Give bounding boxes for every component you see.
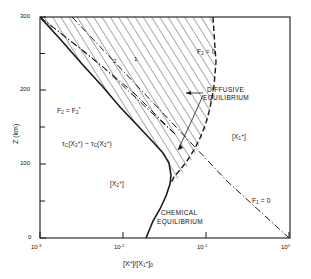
x-axis-major-ticks xyxy=(40,232,289,238)
annotation-f2-equals-f2-star: F2 = F2* xyxy=(57,107,81,115)
x-tick-1e-3: 10-3 xyxy=(31,243,41,250)
annotation-diffusive-line2: EQUILIBRIUM xyxy=(203,94,249,101)
annotation-diffusive-line1: DIFFUSIVE xyxy=(207,86,244,93)
x-tick-1e-2: 10-2 xyxy=(114,243,124,250)
annotation-x2-plus: [X2+] xyxy=(110,180,124,188)
annotation-curve-2: 2 xyxy=(113,58,117,64)
x-axis-label: [X+]/[X1+]0 xyxy=(123,260,153,268)
annotation-f2-equals-zero: F2 = 0 xyxy=(197,48,216,56)
y-tick-0: 0 xyxy=(28,234,31,240)
annotation-x1-plus: [X1+] xyxy=(232,133,246,141)
chart-canvas xyxy=(0,0,311,279)
annotation-curve-1: 1 xyxy=(134,56,138,62)
y-tick-300: 300 xyxy=(20,13,30,19)
y-tick-100: 100 xyxy=(20,160,30,166)
y-tick-200: 200 xyxy=(20,86,30,92)
annotation-tau-comparison: τC(X2+) ~ τC(X2+) xyxy=(62,140,112,148)
annotation-f1-equals-zero: F1 = 0 xyxy=(252,197,271,205)
figure-root: 300 200 100 0 Z (km) 10-3 10-2 10-1 100 … xyxy=(0,0,311,279)
x-tick-1e0: 100 xyxy=(281,243,290,250)
x-tick-1e-1: 10-1 xyxy=(197,243,207,250)
annotation-chemical-line2: EQUILIBRIUM xyxy=(157,218,203,225)
hatched-transition-region xyxy=(40,17,216,181)
y-axis-label: Z (km) xyxy=(12,124,19,144)
y-axis-minor-ticks xyxy=(40,54,45,202)
annotation-chemical-line1: CHEMICAL xyxy=(161,209,197,216)
